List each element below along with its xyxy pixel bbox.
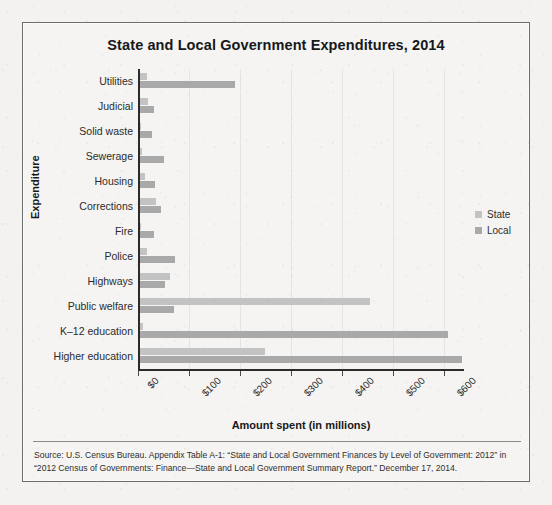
y-axis-category-label: Public welfare [68,300,133,312]
bar-state [140,173,145,180]
y-axis-category-label: Corrections [79,200,133,212]
y-axis-category-label: Police [104,250,133,262]
bar-state [140,273,170,280]
x-tick-mark [189,371,190,376]
source-note: Source: U.S. Census Bureau. Appendix Tab… [34,449,524,474]
bar-local [140,231,154,238]
scanned-page: State and Local Government Expenditures,… [0,0,552,505]
source-divider [33,441,521,442]
x-axis-tick-label: $100 [199,375,223,399]
bar-state [140,223,141,230]
y-axis-line [138,69,140,369]
bar-local [140,131,152,138]
bar-local [140,181,155,188]
y-axis-category-label: Sewerage [86,150,133,162]
legend-item: Local [475,225,511,236]
bar-state [140,298,370,305]
x-tick-mark [138,371,139,376]
bar-local [140,81,235,88]
y-axis-category-label: Fire [115,225,133,237]
x-axis-tick-label: $300 [301,375,325,399]
x-axis-tick-label: $500 [403,375,427,399]
bar-local [140,281,165,288]
x-tick-mark [240,371,241,376]
x-axis-tick-label: $600 [454,375,478,399]
bar-local [140,306,174,313]
bar-state [140,148,142,155]
x-tick-mark [291,371,292,376]
chart-legend: StateLocal [475,209,511,241]
bar-local [140,256,175,263]
y-axis-category-label: Solid waste [79,125,133,137]
bar-local [140,156,164,163]
x-axis-title: Amount spent (in millions) [138,419,464,431]
bar-state [140,248,147,255]
y-axis-category-label: Utilities [99,75,133,87]
legend-item: State [475,209,511,220]
y-axis-category-label: K–12 education [60,325,133,337]
gridline [444,69,445,369]
bar-state [140,98,148,105]
bar-state [140,198,156,205]
y-axis-category-label: Judicial [98,100,133,112]
chart-figure: State and Local Government Expenditures,… [22,22,530,482]
x-axis-tick-label: $400 [352,375,376,399]
gridline [393,69,394,369]
gridline [189,69,190,369]
plot-area [138,69,464,369]
bar-local [140,331,448,338]
gridline [342,69,343,369]
x-tick-mark [393,371,394,376]
bar-state [140,123,141,130]
bar-local [140,106,154,113]
x-tick-mark [342,371,343,376]
legend-swatch [475,227,482,234]
x-axis-tick-label: $200 [250,375,274,399]
gridline [240,69,241,369]
gridline [291,69,292,369]
y-axis-category-label: Housing [94,175,133,187]
legend-label: State [487,209,510,220]
bar-local [140,356,462,363]
y-axis-category-label: Highways [87,275,133,287]
legend-label: Local [487,225,511,236]
y-axis-title: Expenditure [29,155,41,219]
bar-state [140,323,143,330]
x-tick-mark [444,371,445,376]
x-axis-tick-label: $0 [145,375,161,391]
legend-swatch [475,211,482,218]
bar-local [140,206,161,213]
bar-state [140,348,265,355]
chart-title: State and Local Government Expenditures,… [23,37,529,53]
y-axis-category-label: Higher education [54,350,133,362]
bar-state [140,73,147,80]
x-axis-line [138,369,464,371]
